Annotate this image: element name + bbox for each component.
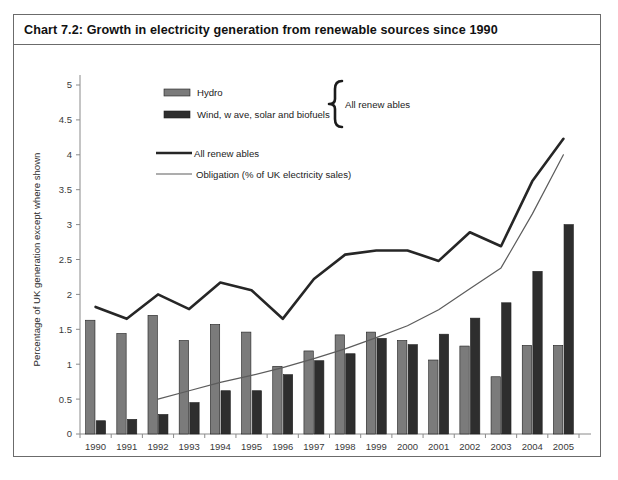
hydro-bar [273, 366, 282, 434]
hydro-bar [366, 332, 375, 434]
x-axis-tick-label: 1999 [366, 441, 387, 452]
legend-label-hydro: Hydro [197, 87, 223, 98]
x-axis-tick-label: 1994 [210, 441, 231, 452]
x-axis-tick-label: 2004 [522, 441, 543, 452]
wind-solar-biofuels-bar [96, 421, 105, 434]
legend-swatch-wind [164, 111, 190, 118]
hydro-bar [86, 320, 95, 434]
x-axis-tick-label: 1998 [335, 441, 356, 452]
chart-plot-area: 00.511.522.533.544.551990199119921993199… [14, 45, 602, 457]
x-axis-tick-label: 1993 [179, 441, 200, 452]
legend-swatch-hydro [164, 89, 190, 96]
wind-solar-biofuels-bar [283, 375, 292, 434]
wind-solar-biofuels-bar [533, 271, 542, 434]
y-axis-tick-label: 2 [67, 289, 72, 300]
x-axis-tick-label: 1990 [85, 441, 106, 452]
wind-solar-biofuels-bar [315, 361, 324, 434]
legend-label-wind: Wind, w ave, solar and biofuels [197, 109, 330, 120]
x-axis-tick-label: 1995 [241, 441, 262, 452]
legend-brace [329, 81, 342, 127]
x-axis-tick-label: 1997 [303, 441, 324, 452]
legend-label-all-renewables: All renew ables [194, 148, 259, 159]
y-axis-tick-label: 4 [67, 149, 72, 160]
hydro-bar [210, 324, 219, 434]
x-axis-tick-label: 1996 [272, 441, 293, 452]
wind-solar-biofuels-bar [190, 403, 199, 434]
wind-solar-biofuels-bar [439, 334, 448, 434]
screenshot-page: Chart 7.2: Growth in electricity generat… [0, 0, 618, 480]
all-renewables-line [96, 139, 564, 319]
x-axis-tick-label: 2001 [428, 441, 449, 452]
hydro-bar [522, 345, 531, 434]
legend-label-obligation: Obligation (% of UK electricity sales) [196, 169, 351, 180]
hydro-bar [553, 345, 562, 434]
y-axis-tick-label: 2.5 [59, 254, 72, 265]
x-axis-tick-label: 2005 [553, 441, 574, 452]
wind-solar-biofuels-bar [377, 338, 386, 434]
wind-solar-biofuels-bar [470, 318, 479, 434]
x-axis-tick-label: 1992 [147, 441, 168, 452]
hydro-bar [429, 360, 438, 434]
wind-solar-biofuels-bar [408, 345, 417, 434]
y-axis-tick-label: 3.5 [59, 184, 72, 195]
page-title: Chart 7.2: Growth in electricity generat… [14, 23, 498, 37]
y-axis-tick-label: 0 [67, 428, 72, 439]
y-axis-tick-label: 4.5 [59, 114, 72, 125]
hydro-bar [491, 377, 500, 434]
wind-solar-biofuels-bar [346, 354, 355, 434]
hydro-bar [148, 315, 157, 434]
y-axis-tick-label: 0.5 [59, 394, 72, 405]
hydro-bar [460, 346, 469, 434]
wind-solar-biofuels-bar [564, 225, 573, 434]
x-axis-tick-label: 2003 [490, 441, 511, 452]
wind-solar-biofuels-bar [127, 419, 136, 434]
y-axis-label: Percentage of UK generation except where… [31, 153, 42, 367]
wind-solar-biofuels-bar [221, 391, 230, 434]
chart-title-bar: Chart 7.2: Growth in electricity generat… [14, 15, 600, 45]
y-axis-tick-label: 1.5 [59, 324, 72, 335]
y-axis-tick-label: 5 [67, 79, 72, 90]
legend-label-all-renewables-brace: All renew ables [345, 99, 410, 110]
x-axis-tick-label: 2002 [459, 441, 480, 452]
x-axis-tick-label: 2000 [397, 441, 418, 452]
y-axis-tick-label: 3 [67, 219, 72, 230]
wind-solar-biofuels-bar [159, 414, 168, 434]
y-axis-tick-label: 1 [67, 359, 72, 370]
wind-solar-biofuels-bar [252, 391, 261, 434]
hydro-bar [304, 351, 313, 434]
renewables-chart: 00.511.522.533.544.551990199119921993199… [14, 45, 602, 457]
wind-solar-biofuels-bar [502, 303, 511, 434]
chart-frame: Chart 7.2: Growth in electricity generat… [13, 14, 601, 457]
hydro-bar [117, 333, 126, 434]
x-axis-tick-label: 1991 [116, 441, 137, 452]
hydro-bar [397, 340, 406, 434]
hydro-bar [179, 340, 188, 434]
hydro-bar [242, 332, 251, 434]
